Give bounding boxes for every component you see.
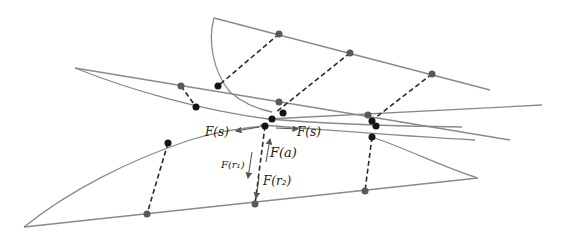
label-force-s-left: F(s) bbox=[204, 125, 229, 139]
node bbox=[347, 50, 354, 57]
node bbox=[369, 134, 376, 141]
node bbox=[362, 188, 369, 195]
diagram-canvas: F(s) F(s) F(a) F(r₁) F(r₂) bbox=[0, 0, 572, 242]
label-force-a: F(a) bbox=[269, 145, 297, 160]
node bbox=[144, 211, 151, 218]
arrow-down-icon bbox=[256, 178, 259, 198]
node bbox=[262, 123, 269, 130]
bottom-sheet bbox=[24, 126, 478, 227]
node bbox=[429, 71, 436, 78]
arrow-down-icon bbox=[248, 152, 252, 178]
node bbox=[373, 123, 380, 130]
label-force-r1: F(r₁) bbox=[220, 159, 245, 170]
label-force-s-right: F(s) bbox=[296, 125, 321, 139]
node bbox=[269, 116, 276, 123]
node bbox=[280, 110, 287, 117]
node bbox=[276, 99, 283, 106]
node bbox=[215, 83, 222, 90]
label-force-r2: F(r₂) bbox=[262, 174, 292, 188]
node bbox=[365, 112, 372, 119]
node bbox=[178, 83, 185, 90]
nodes bbox=[144, 31, 436, 218]
node bbox=[276, 31, 283, 38]
node bbox=[252, 201, 259, 208]
node bbox=[165, 140, 172, 147]
node bbox=[193, 104, 200, 111]
